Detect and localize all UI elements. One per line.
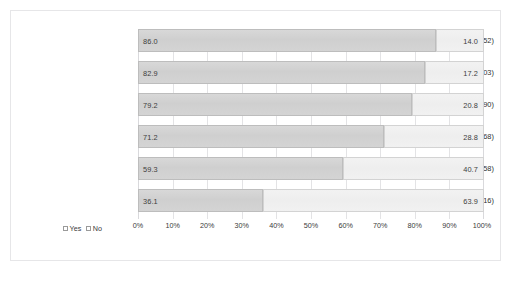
bar-segment-yes[interactable]: 36.1: [138, 189, 263, 212]
bar-row: 71.2 28.8: [138, 125, 484, 148]
bar-segment-yes[interactable]: 59.3: [138, 157, 343, 180]
bar-segment-yes[interactable]: 82.9: [138, 61, 425, 84]
x-tick-label: 40%: [269, 221, 283, 230]
bar-value-label-yes: 82.9: [143, 68, 158, 77]
bar-segment-yes[interactable]: 79.2: [138, 93, 412, 116]
legend-item-no[interactable]: No: [86, 224, 102, 233]
bar-value-label-no: 14.0: [463, 36, 478, 45]
bar-value-label-no: 17.2: [463, 68, 478, 77]
x-tick-label: 0%: [133, 221, 143, 230]
x-tick-label: 100%: [473, 221, 491, 230]
x-tick-label: 20%: [200, 221, 214, 230]
bar-segment-no[interactable]: 63.9: [263, 189, 484, 212]
bar-segment-no[interactable]: 40.7: [343, 157, 484, 180]
bar-value-label-no: 20.8: [463, 100, 478, 109]
bar-segment-yes[interactable]: 86.0: [138, 29, 436, 52]
x-tick-label: 30%: [235, 221, 249, 230]
legend-swatch-icon: [86, 226, 91, 231]
bar-value-label-no: 28.8: [463, 132, 478, 141]
bar-segment-no[interactable]: 20.8: [412, 93, 484, 116]
x-tick-label: 70%: [373, 221, 387, 230]
bar-segment-no[interactable]: 14.0: [436, 29, 484, 52]
x-tick-label: 10%: [165, 221, 179, 230]
bar-row: 82.9 17.2: [138, 61, 484, 84]
x-tick-label: 80%: [408, 221, 422, 230]
bar-row: 86.0 14.0: [138, 29, 484, 52]
bar-value-label-yes: 86.0: [143, 36, 158, 45]
chart-legend: Yes No: [63, 221, 102, 235]
plot-area: 86.0 14.0 82.9 17.2 79.2 20.8 71.2: [138, 29, 484, 219]
bar-segment-yes[interactable]: 71.2: [138, 125, 384, 148]
x-tick-label: 90%: [442, 221, 456, 230]
bar-value-label-yes: 79.2: [143, 100, 158, 109]
x-tick-label: 60%: [338, 221, 352, 230]
legend-label-yes: Yes: [70, 224, 82, 233]
bar-value-label-yes: 59.3: [143, 164, 158, 173]
x-tick-label: 50%: [304, 221, 318, 230]
legend-swatch-icon: [63, 226, 68, 231]
bar-row: 79.2 20.8: [138, 93, 484, 116]
bar-value-label-no: 63.9: [463, 196, 478, 205]
chart-container: Wetland protection (952) Environmental i…: [10, 10, 501, 261]
bar-segment-no[interactable]: 17.2: [425, 61, 484, 84]
bar-row: 36.1 63.9: [138, 189, 484, 212]
x-axis: 0% 10% 20% 30% 40% 50% 60% 70% 80% 90% 1…: [138, 221, 484, 235]
bar-value-label-yes: 71.2: [143, 132, 158, 141]
bar-value-label-no: 40.7: [463, 164, 478, 173]
bar-segment-no[interactable]: 28.8: [384, 125, 484, 148]
legend-label-no: No: [93, 224, 102, 233]
bar-row: 59.3 40.7: [138, 157, 484, 180]
legend-item-yes[interactable]: Yes: [63, 224, 81, 233]
bar-value-label-yes: 36.1: [143, 196, 158, 205]
